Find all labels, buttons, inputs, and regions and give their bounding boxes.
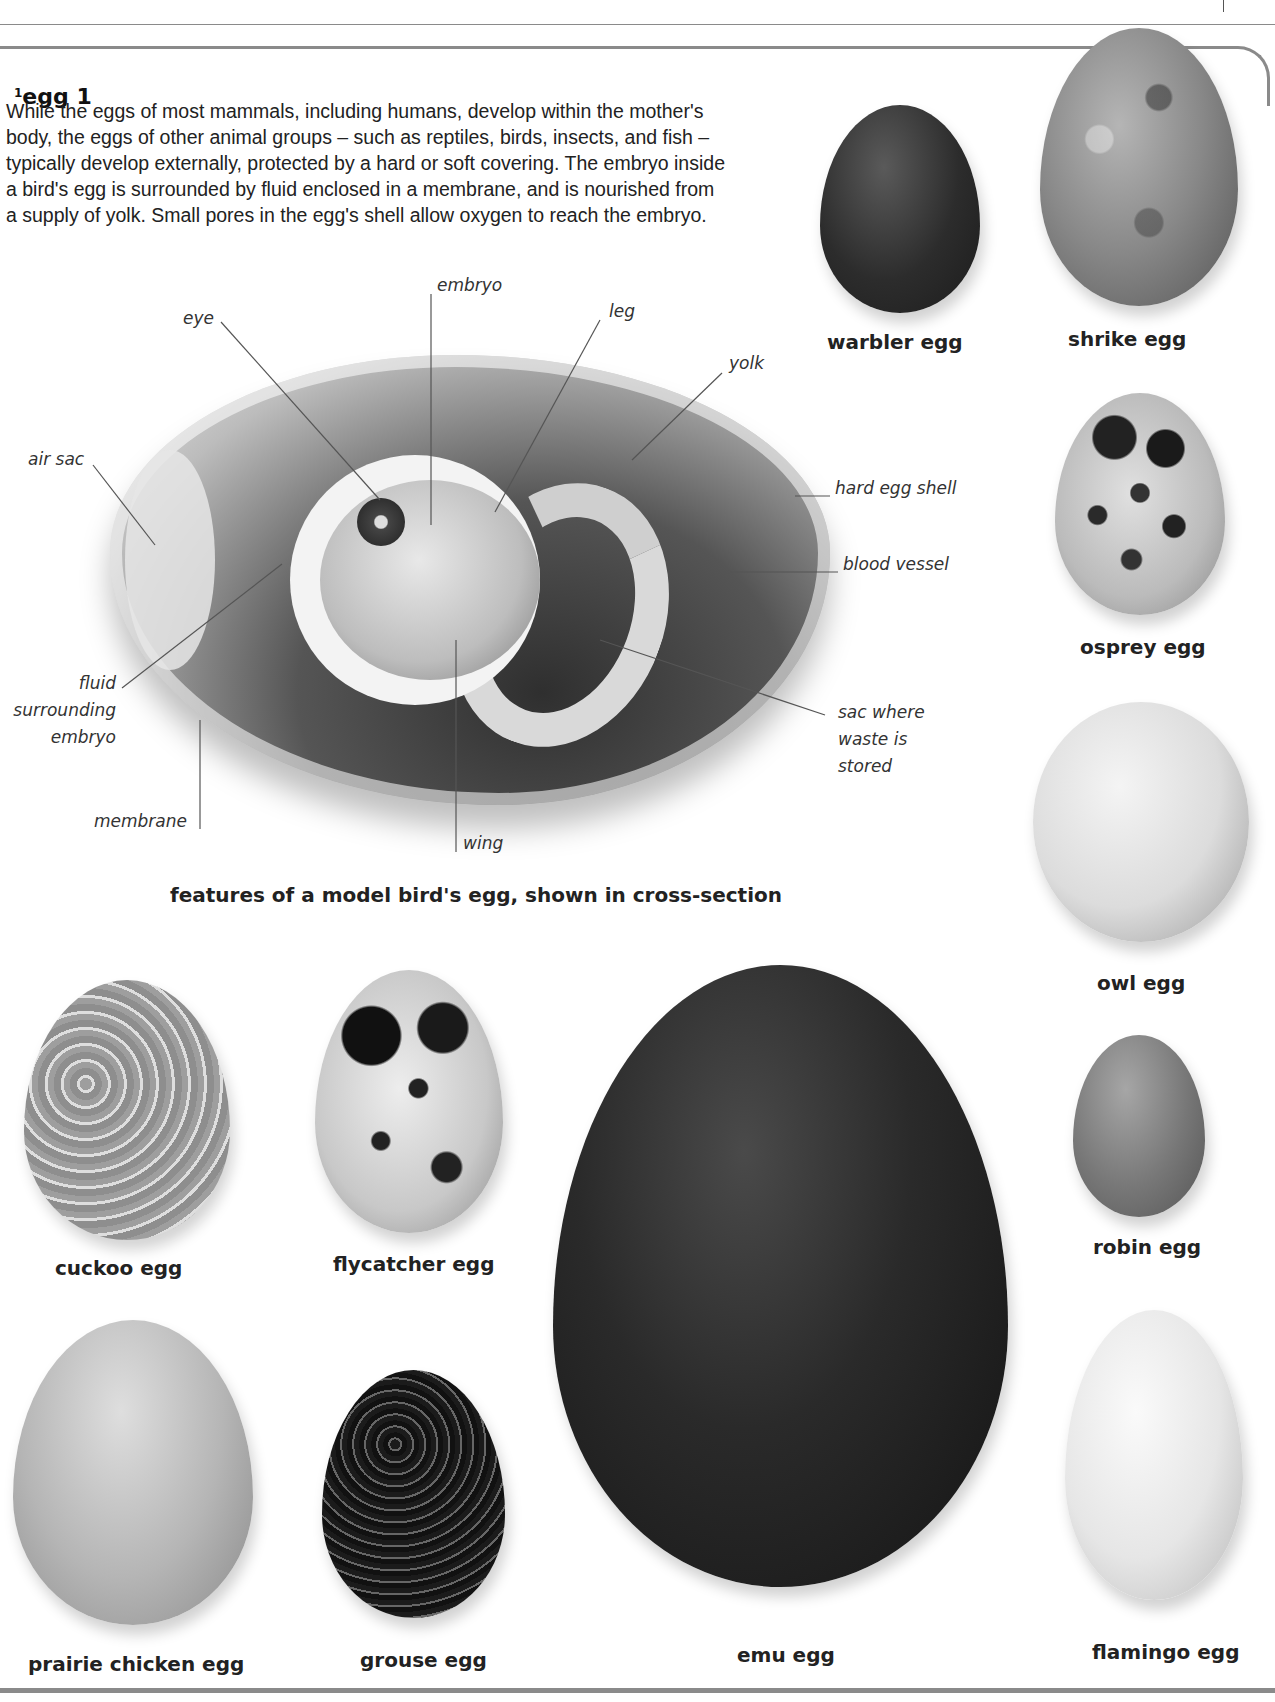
label-hard-egg-shell: hard egg shell [835, 475, 956, 502]
owl-egg-image [1033, 702, 1249, 942]
label-eye: eye [183, 305, 214, 332]
prairie-chicken-egg-image [13, 1320, 253, 1625]
caption-emu-egg: emu egg [737, 1643, 835, 1667]
label-leg: leg [609, 298, 635, 325]
label-fluid-surrounding-embryo: fluid surrounding embryo [6, 670, 116, 751]
grouse-egg-image [322, 1370, 505, 1618]
label-yolk: yolk [729, 350, 764, 377]
label-embryo: embryo [437, 272, 502, 299]
caption-osprey-egg: osprey egg [1080, 635, 1206, 659]
caption-flycatcher-egg: flycatcher egg [333, 1252, 494, 1276]
cuckoo-egg-image [24, 980, 230, 1240]
flycatcher-egg-image [315, 970, 503, 1233]
warbler-egg-image [820, 105, 980, 313]
caption-warbler-egg: warbler egg [827, 330, 963, 354]
caption-flamingo-egg: flamingo egg [1092, 1640, 1239, 1664]
emu-egg-image [553, 965, 1008, 1587]
page-top-rule [0, 24, 1275, 25]
panel-frame-bottom [0, 1688, 1275, 1693]
diagram-caption: features of a model bird's egg, shown in… [170, 883, 782, 907]
entry-definition: While the eggs of most mammals, includin… [6, 98, 726, 228]
egg-cross-section-diagram [95, 330, 835, 840]
caption-owl-egg: owl egg [1097, 971, 1185, 995]
flamingo-egg-image [1065, 1310, 1243, 1600]
diagram-embryo [320, 480, 540, 680]
diagram-eye [357, 498, 405, 546]
definition-text: While the eggs of most mammals, includin… [6, 100, 725, 226]
label-waste-sac: sac where waste is stored [838, 699, 925, 780]
diagram-air-sac [125, 450, 215, 670]
caption-robin-egg: robin egg [1093, 1235, 1201, 1259]
robin-egg-image [1073, 1035, 1205, 1217]
caption-shrike-egg: shrike egg [1068, 327, 1186, 351]
label-membrane: membrane [94, 808, 187, 835]
caption-cuckoo-egg: cuckoo egg [55, 1256, 182, 1280]
caption-prairie-chicken-egg: prairie chicken egg [28, 1652, 244, 1676]
label-blood-vessel: blood vessel [843, 551, 949, 578]
page-header-divider [1223, 0, 1224, 12]
osprey-egg-image [1055, 393, 1225, 615]
label-air-sac: air sac [28, 446, 84, 473]
panel-frame-top [0, 46, 1220, 49]
caption-grouse-egg: grouse egg [360, 1648, 487, 1672]
label-wing: wing [463, 830, 503, 857]
